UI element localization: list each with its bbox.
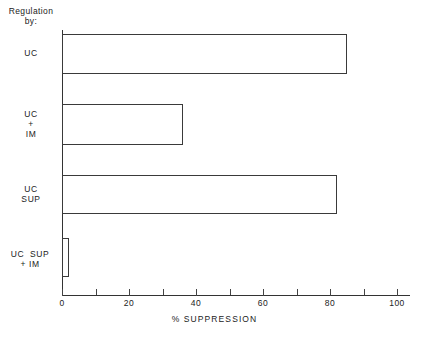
x-tick-40 [196,289,197,296]
category-label-uc-im: UC + IM [2,109,60,139]
x-tick-70 [297,289,298,295]
bar-uc-im [62,104,183,145]
category-label-uc-sup-im: UC SUP + IM [0,249,60,269]
x-tick-90 [364,289,365,295]
bar-chart: Regulation by: UC UC + IM UC SUP UC SUP … [0,0,429,339]
x-tick-50 [230,289,231,295]
x-tick-10 [96,289,97,295]
category-label-uc-sup: UC SUP [2,184,60,204]
bar-uc-sup-im [62,238,69,277]
x-tick-60 [263,289,264,296]
x-tick-20 [129,289,130,296]
x-ticklabel-60: 60 [258,298,268,308]
x-ticklabel-100: 100 [389,298,405,308]
x-axis-line [62,295,410,296]
bar-uc [62,34,347,74]
x-tick-30 [163,289,164,295]
category-label-uc: UC [2,48,60,58]
y-axis-header: Regulation by: [2,6,60,26]
x-ticklabel-0: 0 [59,298,64,308]
x-tick-100 [397,289,398,296]
x-ticklabel-80: 80 [325,298,335,308]
x-ticklabel-20: 20 [124,298,134,308]
x-ticklabel-40: 40 [191,298,201,308]
bar-uc-sup [62,175,337,214]
x-axis-title: % SUPPRESSION [0,314,429,324]
x-tick-80 [330,289,331,296]
x-tick-0 [62,289,63,296]
